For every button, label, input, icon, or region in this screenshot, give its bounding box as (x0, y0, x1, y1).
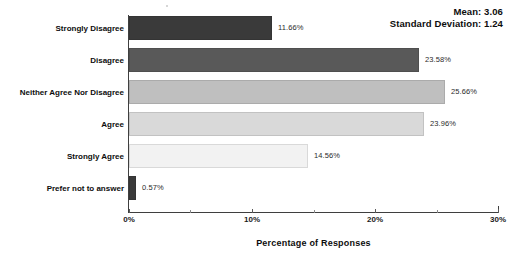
category-label: Strongly Agree (0, 152, 124, 161)
x-axis-major-tick (375, 209, 376, 213)
category-label: Agree (0, 120, 124, 129)
bar[interactable] (129, 112, 424, 136)
bar[interactable] (129, 80, 445, 104)
bar-value-label: 0.57% (142, 183, 164, 192)
bar-value-label: 23.96% (430, 119, 456, 128)
bar[interactable] (129, 16, 272, 40)
x-axis-title: Percentage of Responses (129, 238, 498, 248)
x-axis-major-tick (498, 209, 499, 213)
scan-artifact-speck (166, 5, 168, 7)
category-label: Prefer not to answer (0, 184, 124, 193)
bar-value-label: 14.56% (314, 151, 340, 160)
bar-value-label: 25.66% (451, 87, 477, 96)
bar-row: Disagree23.58% (0, 48, 511, 72)
bar-value-label: 23.58% (425, 55, 451, 64)
bar[interactable] (129, 48, 419, 72)
bar-row: Neither Agree Nor Disagree25.66% (0, 80, 511, 104)
category-label: Strongly Disagree (0, 24, 124, 33)
x-axis-major-tick (129, 209, 130, 213)
bar[interactable] (129, 176, 136, 200)
x-axis-tick-label: 0% (123, 215, 135, 224)
x-axis-minor-tick (437, 210, 438, 213)
x-axis-tick-label: 30% (490, 215, 506, 224)
x-axis-minor-tick (190, 210, 191, 213)
category-label: Disagree (0, 56, 124, 65)
x-axis-tick-label: 10% (244, 215, 260, 224)
bar-row: Agree23.96% (0, 112, 511, 136)
bar-row: Strongly Disagree11.66% (0, 16, 511, 40)
x-axis-minor-tick (314, 210, 315, 213)
bar-row: Prefer not to answer0.57% (0, 176, 511, 200)
bar-value-label: 11.66% (278, 23, 303, 32)
bar-chart: Mean: 3.06 Standard Deviation: 1.24 0%10… (0, 0, 511, 261)
bar[interactable] (129, 144, 308, 168)
category-label: Neither Agree Nor Disagree (0, 88, 124, 97)
x-axis-major-tick (252, 209, 253, 213)
x-axis-tick-label: 20% (367, 215, 383, 224)
bar-row: Strongly Agree14.56% (0, 144, 511, 168)
